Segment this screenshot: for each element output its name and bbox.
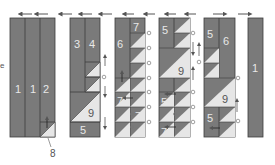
- callout-label: 8: [50, 148, 56, 159]
- strip-group-2: 3 4 9 5: [70, 18, 106, 137]
- piece-label: 7: [135, 110, 141, 122]
- piece-label: 5: [207, 112, 213, 124]
- piece-label: 5: [207, 28, 213, 40]
- strip-group-5: 5 6 9 5: [204, 18, 240, 137]
- quilt-strip-piecing-diagram: e 1 1 2 8 3 4 9 5: [0, 0, 275, 165]
- strip-group-4: 5 9 5 7: [159, 18, 201, 138]
- strip-group-1: 1 1 2 8: [10, 18, 56, 159]
- piece-label: 9: [222, 93, 228, 105]
- piece-label: 9: [178, 65, 184, 77]
- piece-label: 7: [133, 21, 139, 33]
- piece-label: 1: [30, 83, 36, 95]
- piece-label: 2: [43, 83, 49, 95]
- piece-label: 6: [117, 38, 123, 50]
- strip-group-6: 1: [248, 18, 263, 137]
- piece-label: 5: [161, 96, 167, 108]
- piece-label: 7: [161, 126, 167, 138]
- piece-label: 7: [117, 95, 123, 107]
- piece-label: 3: [74, 38, 80, 50]
- piece-label: 6: [223, 35, 229, 47]
- piece-label: 1: [252, 62, 258, 74]
- piece-label: 9: [88, 107, 94, 119]
- strip-group-3: 6 7 7 7: [115, 18, 151, 137]
- piece-label: 5: [162, 24, 168, 36]
- margin-glyph: e: [0, 61, 5, 70]
- piece-label: 4: [89, 38, 95, 50]
- piece-label: 1: [15, 83, 21, 95]
- piece-label: 5: [80, 124, 86, 136]
